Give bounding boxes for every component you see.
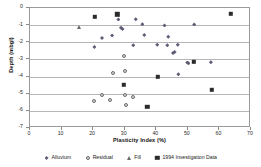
y-tick-mark <box>26 24 29 25</box>
x-tick-label: 0 <box>19 131 39 136</box>
chart-legend: AlluviumResidualFill1994 Investigation D… <box>0 152 261 164</box>
y-tick-mark <box>26 7 29 8</box>
y-tick-label: -6 <box>3 107 23 112</box>
x-tick-label: 30 <box>114 131 134 136</box>
triangle-marker-icon <box>127 155 132 160</box>
y-tick-label: -5 <box>3 90 23 95</box>
y-tick-mark <box>26 110 29 111</box>
x-tick-label: 20 <box>82 131 102 136</box>
x-tick-label: 60 <box>208 131 228 136</box>
scatter-chart: 0-1-2-3-4-5-6-7010203040506070 Depth (mb… <box>0 0 261 167</box>
x-tick-label: 10 <box>51 131 71 136</box>
square-marker-icon <box>155 155 160 160</box>
y-tick-mark <box>26 41 29 42</box>
y-tick-label: 0 <box>3 4 23 9</box>
legend-label: Fill <box>134 155 141 160</box>
diamond-marker-icon <box>44 155 49 160</box>
y-axis-title: Depth (mbgl) <box>8 25 14 85</box>
legend-item-1994-investigation-data: 1994 Investigation Data <box>155 155 217 160</box>
y-tick-label: -7 <box>3 124 23 129</box>
x-tick-label: 40 <box>145 131 165 136</box>
legend-label: 1994 Investigation Data <box>162 155 217 160</box>
legend-label: Residual <box>93 155 113 160</box>
circle-marker-icon <box>85 155 90 160</box>
y-tick-mark <box>26 58 29 59</box>
x-axis-title: Plasticity Index (%) <box>29 137 250 143</box>
y-tick-mark <box>26 93 29 94</box>
x-tick-label: 70 <box>240 131 260 136</box>
x-tick-label: 50 <box>177 131 197 136</box>
legend-item-alluvium: Alluvium <box>44 155 71 160</box>
y-tick-mark <box>26 76 29 77</box>
legend-label: Alluvium <box>52 155 72 160</box>
legend-item-fill: Fill <box>127 155 141 160</box>
legend-item-residual: Residual <box>85 155 113 160</box>
